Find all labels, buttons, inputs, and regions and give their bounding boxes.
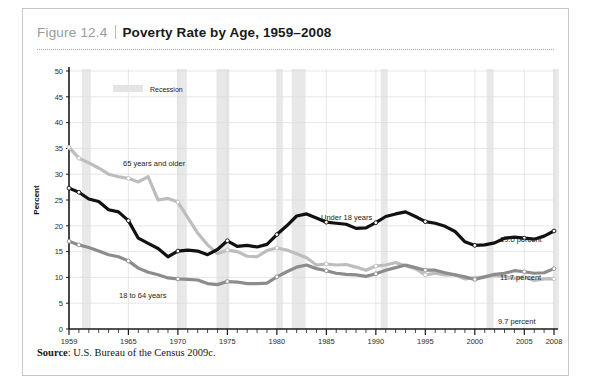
legend-label-recession: Recession <box>150 86 183 93</box>
legend-swatch-recession <box>113 85 143 92</box>
series-marker <box>473 278 477 282</box>
x-axis-tick-label: 1959 <box>61 337 78 346</box>
series-label-65-and-older: 65 years and older <box>123 159 186 168</box>
series-marker <box>176 277 180 281</box>
recession-band <box>292 69 306 329</box>
series-marker <box>324 269 328 273</box>
series-marker <box>423 273 427 277</box>
series-marker <box>77 243 81 247</box>
y-axis-tick-label: 40 <box>55 118 63 127</box>
y-axis-title: Percent <box>32 185 41 215</box>
source-label: Source <box>37 347 68 358</box>
x-axis-tick-label: 2008 <box>546 337 563 346</box>
chart-area: 05101520253035404550Percent 195919651970… <box>23 9 570 377</box>
x-axis-tick-label: 1990 <box>367 337 384 346</box>
y-axis-tick-label: 30 <box>55 170 63 179</box>
series-marker <box>67 145 71 149</box>
x-axis-tick-label: 1995 <box>417 337 434 346</box>
y-axis-tick-label: 20 <box>55 222 63 231</box>
y-axis-tick-label: 25 <box>55 196 63 205</box>
series-marker <box>423 220 427 224</box>
series-marker <box>77 156 81 160</box>
y-axis-tick-label: 45 <box>55 93 63 102</box>
series-label-under-18: Under 18 years <box>321 213 373 222</box>
series-marker <box>423 268 427 272</box>
series-marker <box>126 259 130 263</box>
source-note: Source: U.S. Bureau of the Census 2009c. <box>37 347 216 358</box>
y-axis-tick-label: 50 <box>55 67 63 76</box>
series-marker <box>552 267 556 271</box>
series-marker <box>225 248 229 252</box>
series-marker <box>324 262 328 266</box>
y-axis: 05101520253035404550Percent <box>32 67 69 334</box>
series-marker <box>225 239 229 243</box>
y-axis-tick-label: 15 <box>55 247 63 256</box>
x-axis-tick-label: 2000 <box>466 337 483 346</box>
recession-band <box>277 69 283 329</box>
chart-legend: Recession <box>113 85 183 93</box>
end-label-under-18: 19.0 percent <box>500 235 543 244</box>
end-label-65-and-older: 9.7 percent <box>498 317 536 326</box>
series-marker <box>176 200 180 204</box>
series-marker <box>374 264 378 268</box>
x-axis-tick-label: 1985 <box>318 337 335 346</box>
x-axis-tick-label: 1980 <box>269 337 286 346</box>
series-marker <box>552 277 556 281</box>
recession-band <box>381 69 388 329</box>
x-axis: 1959196519701975198019851990199520002005… <box>61 329 563 346</box>
series-marker <box>374 221 378 225</box>
recession-band <box>177 69 187 329</box>
series-marker <box>67 186 71 190</box>
x-axis-tick-label: 1970 <box>170 337 187 346</box>
series-marker <box>275 246 279 250</box>
series-marker <box>225 280 229 284</box>
series-marker <box>77 190 81 194</box>
series-marker <box>126 219 130 223</box>
series-marker <box>473 244 477 248</box>
series-marker <box>275 275 279 279</box>
source-text: : U.S. Bureau of the Census 2009c. <box>68 347 216 358</box>
y-axis-tick-label: 5 <box>59 299 63 308</box>
y-axis-tick-label: 35 <box>55 144 63 153</box>
poverty-rate-line-chart: 05101520253035404550Percent 195919651970… <box>23 9 570 377</box>
y-axis-tick-label: 10 <box>55 273 63 282</box>
x-axis-tick-label: 1965 <box>120 337 137 346</box>
series-marker <box>374 272 378 276</box>
end-label-18-to-64: 11.7 percent <box>500 273 542 282</box>
y-axis-tick-label: 0 <box>59 325 63 334</box>
series-marker <box>67 239 71 243</box>
x-axis-tick-label: 2005 <box>516 337 533 346</box>
series-marker <box>275 233 279 237</box>
series-marker <box>552 229 556 233</box>
recession-band <box>487 69 494 329</box>
gridlines-group <box>69 69 554 329</box>
recession-bands-group <box>82 69 559 329</box>
series-line <box>69 188 554 257</box>
series-label-18-to-64: 18 to 64 years <box>119 291 167 300</box>
x-axis-tick-label: 1975 <box>219 337 236 346</box>
series-marker <box>176 249 180 253</box>
series-marker <box>126 176 130 180</box>
figure-card: Figure 12.4 Poverty Rate by Age, 1959–20… <box>22 8 569 376</box>
